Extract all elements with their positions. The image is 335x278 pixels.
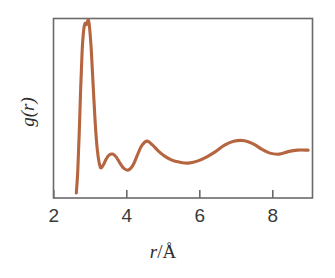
radial-distribution-function-figure: 2 4 6 8 r/Å g(r) [0, 0, 335, 278]
x-axis-title: r/Å [150, 241, 177, 262]
x-tick-label-4: 4 [122, 205, 133, 226]
x-axis-title-text: r/Å [150, 241, 177, 262]
y-axis-title-text: g(r) [17, 97, 39, 127]
x-tick-label-6: 6 [195, 205, 206, 226]
plot-canvas: 2 4 6 8 r/Å g(r) [0, 0, 335, 278]
y-axis-title-variable: g [17, 117, 38, 127]
x-axis-title-unit: Å [162, 241, 176, 262]
x-axis-ticks [54, 190, 273, 198]
y-axis-title: g(r) [17, 97, 39, 127]
x-tick-label-2: 2 [49, 205, 60, 226]
gr-data-curve [76, 20, 308, 193]
y-axis-title-argument: (r) [17, 97, 39, 117]
x-tick-label-8: 8 [268, 205, 279, 226]
